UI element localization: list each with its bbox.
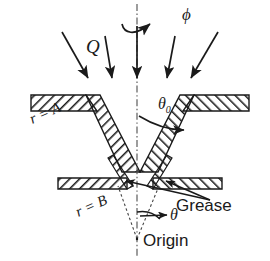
flow-rate-label: Q <box>86 36 100 58</box>
origin-label: Origin <box>143 231 188 251</box>
inflow-arrow-5 <box>191 32 218 78</box>
groove-cross-section-figure <box>0 0 270 261</box>
theta-zero-label: θ0 <box>158 95 171 115</box>
right-wall-hatched-body <box>140 95 249 189</box>
phi-rotation-arrow <box>122 24 150 32</box>
phi-label: ϕ <box>182 5 191 25</box>
theta-zero-symbol: θ <box>158 95 166 112</box>
radial-ray-left <box>118 186 137 239</box>
inflow-arrow-4 <box>167 36 175 78</box>
inflow-arrow-1 <box>62 32 88 78</box>
grease-label: Grease <box>176 196 232 216</box>
inflow-arrow-2 <box>105 36 112 78</box>
origin-point-marker <box>136 238 138 240</box>
theta-zero-subscript: 0 <box>166 104 171 115</box>
theta-direction-arrow <box>140 215 167 216</box>
